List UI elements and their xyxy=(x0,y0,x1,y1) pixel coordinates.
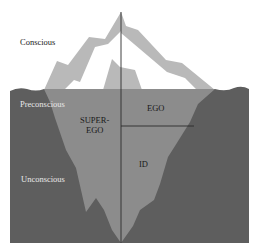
label-unconscious: Unconscious xyxy=(21,174,65,184)
label-id: ID xyxy=(139,159,148,169)
label-superego-line1: SUPER- xyxy=(80,115,109,125)
label-conscious: Conscious xyxy=(20,37,55,47)
label-preconscious: Preconscious xyxy=(20,99,65,109)
label-superego-line2: EGO xyxy=(86,125,103,135)
label-ego: EGO xyxy=(147,103,164,113)
iceberg-diagram: Conscious Preconscious Unconscious SUPER… xyxy=(0,0,256,252)
